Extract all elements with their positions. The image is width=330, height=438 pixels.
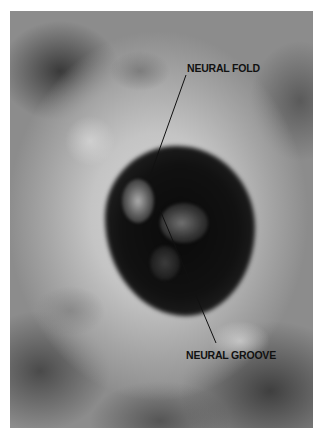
pointer-lines bbox=[0, 0, 330, 438]
neural-groove-pointer bbox=[160, 210, 216, 343]
neural-groove-label: NEURAL GROOVE bbox=[186, 349, 276, 361]
neural-fold-label: NEURAL FOLD bbox=[187, 62, 260, 74]
neural-fold-pointer bbox=[150, 75, 186, 176]
